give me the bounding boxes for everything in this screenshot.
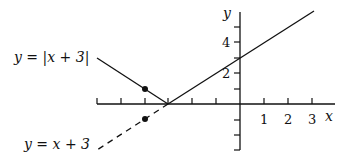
point-abs-at-minus4 bbox=[142, 86, 148, 92]
x-tick-label-3: 3 bbox=[308, 112, 316, 127]
x-axis-label: x bbox=[325, 108, 333, 124]
y-axis-label: y bbox=[222, 5, 232, 21]
x-tick-label-1: 1 bbox=[260, 112, 268, 127]
y-ticks bbox=[234, 27, 240, 150]
point-linear-at-minus4 bbox=[142, 116, 148, 122]
linear-curve-dashed-branch bbox=[97, 104, 168, 150]
abs-curve-right-branch bbox=[168, 11, 314, 104]
abs-equation-label: y = |x + 3| bbox=[13, 49, 89, 66]
y-tick-label-2: 2 bbox=[222, 66, 230, 81]
x-tick-label-2: 2 bbox=[284, 112, 292, 127]
linear-equation-label: y = x + 3 bbox=[23, 136, 90, 152]
y-tick-label-4: 4 bbox=[222, 35, 230, 50]
x-ticks bbox=[97, 98, 312, 104]
graph-figure: y x 4 2 1 2 3 y = |x + 3| y = x + 3 bbox=[0, 0, 357, 162]
abs-curve-left-branch bbox=[97, 58, 168, 104]
